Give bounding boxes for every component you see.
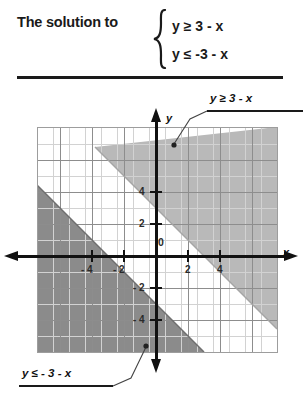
curly-brace-icon — [152, 9, 168, 69]
y-tick-label-pos4: 4 — [139, 186, 145, 197]
page-title: The solution to — [17, 14, 118, 30]
x-axis-label: x — [283, 246, 289, 258]
y-axis-arrow-up — [151, 108, 161, 122]
callout-top-underline — [207, 110, 303, 112]
origin-tick-label: 0 — [158, 236, 164, 248]
callout-bottom-underline — [19, 385, 113, 387]
header: The solution to y ≥ 3 - x y ≤ -3 - x — [0, 0, 305, 78]
coordinate-graph: y ≥ 3 - x y ≤ - 3 - x y x 0 - 4 - 2 2 4 … — [0, 84, 305, 409]
plot-svg — [0, 84, 305, 409]
callout-label-upper: y ≥ 3 - x — [210, 92, 252, 104]
x-tick-label-pos4: 4 — [217, 264, 223, 275]
x-tick-label-pos2: 2 — [185, 264, 191, 275]
y-axis-arrow-down — [151, 359, 161, 373]
callout-top-dot — [171, 142, 176, 147]
y-tick-label-neg2: - 2 — [133, 282, 145, 293]
inequality-line-2: y ≤ -3 - x — [172, 46, 228, 62]
inequality-line-1: y ≥ 3 - x — [172, 18, 223, 34]
y-axis-label: y — [166, 112, 172, 124]
x-axis-arrow-left — [4, 251, 18, 261]
horizontal-divider — [17, 76, 283, 79]
callout-bottom-dot — [143, 343, 148, 348]
callout-label-lower: y ≤ - 3 - x — [22, 367, 71, 379]
system-of-inequalities: y ≥ 3 - x y ≤ -3 - x — [152, 6, 292, 72]
x-tick-label-neg2: - 2 — [113, 264, 125, 275]
x-tick-label-neg4: - 4 — [81, 264, 93, 275]
y-tick-label-neg4: - 4 — [133, 314, 145, 325]
y-tick-label-pos2: 2 — [139, 218, 145, 229]
